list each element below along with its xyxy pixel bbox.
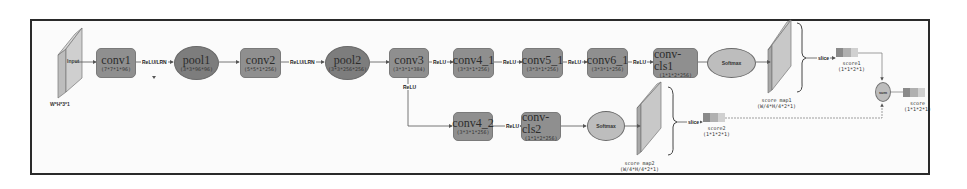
score-final-label: score (1*1*2*1) [904,100,931,112]
conv6-1-node[interactable]: conv6_1 (3*3*1*256) [587,48,628,78]
edge-relu-a: ReLU [432,59,447,65]
conv2-node[interactable]: conv2 (5*5*1*256) [240,48,281,78]
conv4-2-title: conv4_2 [452,117,493,129]
score-final-dims: (1*1*2*1) [904,106,931,112]
edge-slice2: slice [687,119,700,125]
conv-cls1-node[interactable]: conv-cls1 (1*1*2*256) [653,48,698,78]
score-map1-dims: (W/4*H/4*2*1) [757,103,796,109]
pool2-dims: (3*3*256*256) [328,66,367,73]
softmax2-node[interactable]: Softmax [587,111,625,141]
pool2-node[interactable]: pool2 (3*3*256*256) [325,46,370,80]
conv2-title: conv2 [246,54,275,66]
conv-cls2-dims: (1*1*2*256) [524,135,557,142]
pool2-title: pool2 [334,54,361,66]
conv4-1-node[interactable]: conv4_1 (3*3*1*256) [453,48,494,78]
connection-wires [0,0,967,189]
pool1-dims: (3*3*96*96) [180,66,213,73]
conv3-node[interactable]: conv3 (3*3*1*384) [389,48,429,78]
softmax2-title: Softmax [596,123,616,129]
score1-dims: (1*1*2*1) [838,66,865,72]
conv-cls2-node[interactable]: conv-cls2 (1*1*2*256) [521,112,561,141]
conv4-2-node[interactable]: conv4_2 (3*3*1*256) [453,112,493,141]
conv-cls1-dims: (1*1*2*256) [659,72,692,79]
score2-label: score2 (1*1*2*1) [703,125,730,137]
sum-title: sum [879,90,887,95]
score-map2-dims: (W/4*H/4*2*1) [620,166,659,172]
softmax1-title: Softmax [722,60,742,66]
edge-relu-lrn-2: ReLU/LRN [289,59,316,65]
conv3-dims: (3*3*1*384) [392,66,425,73]
score-map2-plane [637,82,661,155]
score-map1-label: score map1 (W/4*H/4*2*1) [757,97,796,109]
edge-relu-b: ReLU [502,59,517,65]
score2-dims: (1*1*2*1) [703,131,730,137]
conv5-1-node[interactable]: conv5_1 (3*3*1*256) [522,48,563,78]
conv-cls2-title: conv-cls2 [522,111,560,135]
score-final-block[interactable] [903,88,925,97]
sum-node[interactable]: sum [875,82,891,102]
conv-cls1-title: conv-cls1 [654,48,697,72]
conv1-dims: (7*7*1*96) [101,66,131,73]
input-label: Input [67,58,79,64]
input-dims: W*H*3*1 [50,101,70,107]
edge-relu-d-main: ReLU [632,59,647,65]
conv4-1-title: conv4_1 [453,54,494,66]
edge-relu-branch: ReLU [402,84,417,90]
pool1-node[interactable]: pool1 (3*3*96*96) [174,46,219,80]
conv4-1-dims: (3*3*1*256) [457,66,490,73]
pool1-title: pool1 [183,54,210,66]
conv6-1-title: conv6_1 [587,54,628,66]
edge-relu-lrn-1: ReLU/LRN [141,59,168,65]
conv6-1-dims: (3*3*1*256) [591,66,624,73]
conv5-1-dims: (3*3*1*256) [526,66,559,73]
conv5-1-title: conv5_1 [522,54,563,66]
conv1-node[interactable]: conv1 (7*7*1*96) [96,48,136,78]
score2-block[interactable] [703,113,725,122]
score-map1-plane [768,20,791,93]
softmax1-node[interactable]: Softmax [707,48,756,78]
edge-relu-c: ReLU [567,59,582,65]
conv4-2-dims: (3*3*1*256) [456,129,489,136]
score-map2-label: score map2 (W/4*H/4*2*1) [620,160,659,172]
edge-slice1: slice [817,55,830,61]
score1-block[interactable] [836,48,858,57]
score1-label: score1 (1*1*2*1) [838,60,865,72]
edge-relu-d: ReLU [505,123,520,129]
conv3-title: conv3 [394,54,423,66]
conv1-title: conv1 [101,54,130,66]
conv2-dims: (5*5*1*256) [244,66,277,73]
